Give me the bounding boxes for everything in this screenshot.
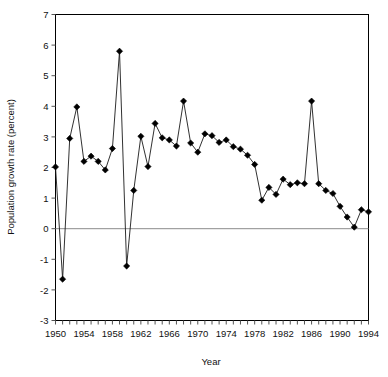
data-point-marker <box>138 133 144 139</box>
x-tick-label: 1982 <box>273 328 294 339</box>
y-tick-label: 3 <box>43 132 48 143</box>
y-tick-label: 7 <box>43 9 48 20</box>
data-point-marker <box>145 163 151 169</box>
population-growth-line-chart: 76543210-1-2-3 1950195419581962196619701… <box>0 0 388 377</box>
data-point-marker <box>308 98 314 104</box>
data-line <box>56 51 369 279</box>
data-point-marker <box>337 203 343 209</box>
data-point-marker <box>301 181 307 187</box>
plot-frame <box>56 15 369 321</box>
data-point-marker <box>180 98 186 104</box>
data-point-marker <box>88 153 94 159</box>
y-tick-label: 6 <box>43 40 48 51</box>
x-tick-label: 1970 <box>187 328 208 339</box>
y-tick-label: -3 <box>40 315 48 326</box>
x-axis-tick-labels: 1950195419581962196619701974197819821986… <box>45 328 379 339</box>
data-point-marker <box>202 131 208 137</box>
data-point-marker <box>351 224 357 230</box>
data-point-marker <box>67 135 73 141</box>
x-tick-label: 1962 <box>130 328 151 339</box>
x-tick-label: 1978 <box>244 328 265 339</box>
data-point-marker <box>60 276 66 282</box>
data-point-marker <box>152 120 158 126</box>
data-point-marker <box>109 145 115 151</box>
data-point-marker <box>330 190 336 196</box>
data-point-marker <box>344 214 350 220</box>
x-tick-label: 1986 <box>301 328 322 339</box>
data-point-marker <box>81 158 87 164</box>
x-tick-label: 1958 <box>102 328 123 339</box>
data-point-marker <box>74 104 80 110</box>
x-tick-label: 1954 <box>73 328 94 339</box>
y-tick-label: 4 <box>43 101 48 112</box>
data-point-marker <box>116 48 122 54</box>
y-tick-label: -2 <box>40 285 48 296</box>
y-tick-label: -1 <box>40 254 48 265</box>
chart-figure: 76543210-1-2-3 1950195419581962196619701… <box>0 0 388 377</box>
data-point-marker <box>259 197 265 203</box>
y-axis-tick-labels: 76543210-1-2-3 <box>40 9 48 326</box>
y-tick-label: 5 <box>43 70 48 81</box>
x-tick-label: 1966 <box>159 328 180 339</box>
y-tick-label: 0 <box>43 223 48 234</box>
data-point-marker <box>124 263 130 269</box>
x-tick-label: 1990 <box>329 328 350 339</box>
x-axis-ticks <box>56 321 369 325</box>
data-markers <box>52 48 371 282</box>
data-point-marker <box>131 187 137 193</box>
data-point-marker <box>294 180 300 186</box>
data-point-marker <box>159 135 165 141</box>
y-axis-title: Population growth rate (percent) <box>5 99 16 235</box>
x-tick-label: 1974 <box>216 328 237 339</box>
x-axis-title: Year <box>201 356 220 367</box>
x-tick-label: 1994 <box>358 328 379 339</box>
y-tick-label: 1 <box>43 193 48 204</box>
data-point-marker <box>358 207 364 213</box>
data-point-marker <box>365 209 371 215</box>
data-point-marker <box>52 164 58 170</box>
x-tick-label: 1950 <box>45 328 66 339</box>
y-tick-label: 2 <box>43 162 48 173</box>
